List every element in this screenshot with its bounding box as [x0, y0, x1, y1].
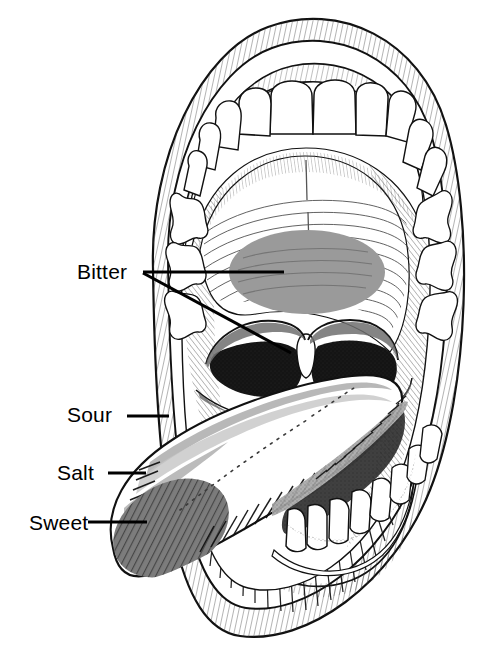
zone-label-salt: Salt — [57, 462, 94, 483]
zone-label-sweet: Sweet — [29, 512, 88, 533]
zone-label-sour: Sour — [67, 404, 112, 425]
tongue-taste-map-figure: Bitter Sour Salt Sweet — [0, 0, 490, 661]
zone-label-bitter: Bitter — [77, 261, 127, 282]
mouth-anatomy-illustration — [0, 0, 490, 661]
